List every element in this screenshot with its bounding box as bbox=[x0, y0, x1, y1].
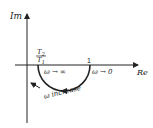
omega-infinity-label: ω → ∞ bbox=[44, 68, 66, 76]
diagram-svg: Im Re T2 T1 1 ω → ∞ ω → 0 ω increase bbox=[0, 0, 153, 128]
omega-zero-label: ω → 0 bbox=[92, 68, 113, 76]
unit-point-label: 1 bbox=[87, 57, 91, 64]
omega-increase-arrow bbox=[31, 83, 40, 88]
re-axis-label: Re bbox=[136, 68, 148, 77]
im-axis-label: Im bbox=[9, 11, 22, 21]
t1-denominator: T1 bbox=[37, 56, 45, 65]
polar-plot-diagram: Im Re T2 T1 1 ω → ∞ ω → 0 ω increase bbox=[0, 0, 153, 128]
